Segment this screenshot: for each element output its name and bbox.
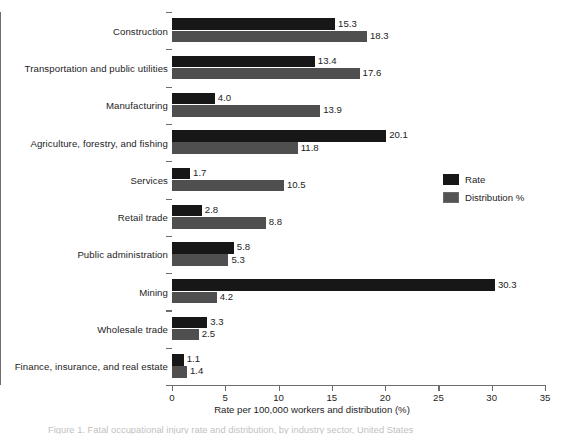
bar-dist[interactable] <box>172 180 284 192</box>
bar-value-label: 10.5 <box>284 179 306 191</box>
bar-row: Finance, insurance, and real estate1.11.… <box>0 348 564 385</box>
bar-row: Manufacturing4.013.9 <box>0 87 564 124</box>
bar-group: 20.111.8 <box>172 124 564 161</box>
bar-value-label: 3.3 <box>207 316 223 328</box>
x-axis-tick-label: 5 <box>223 392 228 403</box>
bar-rate[interactable] <box>172 242 234 254</box>
category-label: Retail trade <box>118 212 168 223</box>
bar-value-label: 15.3 <box>335 18 357 30</box>
bar-row: Wholesale trade3.32.5 <box>0 310 564 347</box>
bar-dist[interactable] <box>172 68 360 80</box>
bar-value-label: 13.4 <box>315 55 337 67</box>
x-axis-tick-label: 15 <box>327 392 338 403</box>
bar-dist[interactable] <box>172 142 298 154</box>
legend-item-rate[interactable]: Rate <box>443 171 524 187</box>
category-label: Construction <box>113 25 168 36</box>
legend-label-distribution: Distribution % <box>465 192 524 203</box>
bar-group: 3.32.5 <box>172 310 564 347</box>
x-axis-tick <box>385 385 386 391</box>
x-axis-tick <box>279 385 280 391</box>
bar-value-label: 8.8 <box>266 216 282 228</box>
figure-caption: Figure 1. Fatal occupational injury rate… <box>48 424 528 434</box>
bar-row: Construction15.318.3 <box>0 12 564 49</box>
category-label: Services <box>130 174 168 185</box>
legend-item-distribution[interactable]: Distribution % <box>443 189 524 205</box>
bar-value-label: 1.4 <box>187 365 203 377</box>
x-axis-tick <box>225 385 226 391</box>
x-axis-tick-label: 25 <box>433 392 444 403</box>
x-axis-tick-label: 10 <box>273 392 284 403</box>
bar-rate[interactable] <box>172 168 190 180</box>
category-label: Public administration <box>77 249 168 260</box>
bar-dist[interactable] <box>172 329 199 341</box>
bar-value-label: 17.6 <box>360 67 382 79</box>
bar-value-label: 4.2 <box>217 291 233 303</box>
bar-group: 1.11.4 <box>172 348 564 385</box>
bar-value-label: 1.7 <box>190 167 206 179</box>
bar-rate[interactable] <box>172 56 315 68</box>
bar-value-label: 30.3 <box>495 279 517 291</box>
figure-container: Construction15.318.3Transportation and p… <box>0 0 564 434</box>
y-axis-tick <box>166 385 172 386</box>
category-label: Transportation and public utilities <box>25 62 168 73</box>
bar-value-label: 1.1 <box>184 353 200 365</box>
bar-value-label: 13.9 <box>320 104 342 116</box>
x-axis-line <box>172 385 546 386</box>
bar-value-label: 18.3 <box>367 30 389 42</box>
bar-group: 15.318.3 <box>172 12 564 49</box>
x-axis-tick-label: 30 <box>486 392 497 403</box>
bar-value-label: 2.5 <box>199 328 215 340</box>
legend-label-rate: Rate <box>465 174 485 185</box>
bar-group: 30.34.2 <box>172 273 564 310</box>
x-axis-tick-label: 20 <box>380 392 391 403</box>
bar-group: 5.85.3 <box>172 236 564 273</box>
x-axis-tick-label: 35 <box>540 392 551 403</box>
bar-rate[interactable] <box>172 18 335 30</box>
bar-row: Transportation and public utilities13.41… <box>0 49 564 86</box>
bar-value-label: 4.0 <box>215 92 231 104</box>
bar-value-label: 20.1 <box>386 129 408 141</box>
bar-value-label: 5.8 <box>234 241 250 253</box>
bar-value-label: 2.8 <box>202 204 218 216</box>
bar-row: Public administration5.85.3 <box>0 236 564 273</box>
bar-dist[interactable] <box>172 31 367 43</box>
chart-legend: Rate Distribution % <box>443 171 524 207</box>
x-axis-tick <box>332 385 333 391</box>
bar-rate[interactable] <box>172 205 202 217</box>
x-axis-tick <box>492 385 493 391</box>
x-axis-title: Rate per 100,000 workers and distributio… <box>0 404 564 415</box>
bar-value-label: 5.3 <box>228 254 244 266</box>
bar-rate[interactable] <box>172 354 184 366</box>
bar-dist[interactable] <box>172 254 228 266</box>
bar-rate[interactable] <box>172 130 386 142</box>
x-axis-tick <box>172 385 173 391</box>
category-label: Manufacturing <box>106 100 168 111</box>
bar-rate[interactable] <box>172 93 215 105</box>
bar-dist[interactable] <box>172 366 187 378</box>
bar-row: Agriculture, forestry, and fishing20.111… <box>0 124 564 161</box>
black-square-swatch-icon <box>443 174 459 185</box>
bar-group: 13.417.6 <box>172 49 564 86</box>
bar-rate[interactable] <box>172 317 207 329</box>
x-axis-tick-label: 0 <box>169 392 174 403</box>
bar-dist[interactable] <box>172 105 320 117</box>
bar-dist[interactable] <box>172 292 217 304</box>
bar-dist[interactable] <box>172 217 266 229</box>
bar-row: Mining30.34.2 <box>0 273 564 310</box>
gray-square-swatch-icon <box>443 192 459 203</box>
x-axis-tick <box>438 385 439 391</box>
bar-group: 4.013.9 <box>172 87 564 124</box>
bar-value-label: 11.8 <box>298 142 319 154</box>
category-label: Wholesale trade <box>97 324 168 335</box>
bar-rate[interactable] <box>172 279 495 291</box>
x-axis-tick <box>545 385 546 391</box>
category-label: Finance, insurance, and real estate <box>15 361 168 372</box>
category-label: Mining <box>139 286 168 297</box>
category-label: Agriculture, forestry, and fishing <box>30 137 168 148</box>
